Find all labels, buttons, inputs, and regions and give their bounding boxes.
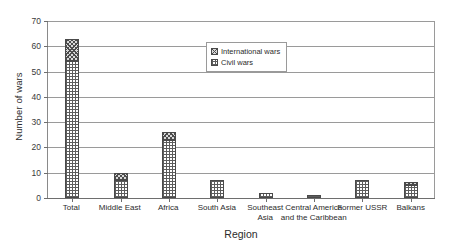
legend-item-civil-wars: Civil wars (211, 57, 280, 67)
y-axis-tick-label: 20 (32, 142, 41, 152)
x-axis-label: Region (47, 228, 435, 240)
y-axis-tick-label: 10 (32, 168, 41, 178)
x-axis-tick (72, 198, 73, 202)
x-axis-tick (314, 198, 315, 202)
legend-label-international-wars: International wars (221, 47, 280, 56)
bar-africa (162, 21, 176, 198)
bar-segment-civil (65, 61, 79, 198)
x-axis-tick (266, 198, 267, 202)
y-axis-tick (44, 198, 48, 199)
war-counts-bar-chart: Number of wars 010203040506070 TotalMidd… (0, 0, 450, 245)
x-axis-tick (121, 198, 122, 202)
legend-item-international-wars: International wars (211, 47, 280, 57)
bar-segment-civil (162, 140, 176, 198)
x-axis-tick-label: Balkans (374, 203, 448, 213)
bar-segment-intl (114, 173, 128, 181)
bar-segment-intl (162, 132, 176, 140)
bar-segment-intl (65, 39, 79, 62)
y-axis-label: Number of wars (13, 42, 24, 172)
x-axis-tick (411, 198, 412, 202)
x-axis-tick-label-line: and the Caribbean (277, 213, 351, 223)
bar-segment-civil (210, 180, 224, 198)
x-axis-tick (169, 198, 170, 202)
bar-balkans (404, 21, 418, 198)
x-axis-tick-label-line: Balkans (374, 203, 448, 213)
y-axis-tick-label: 70 (32, 16, 41, 26)
bar-segment-civil (355, 180, 369, 198)
bar-segment-civil (404, 185, 418, 198)
x-axis-tick (362, 198, 363, 202)
bar-former-ussr (355, 21, 369, 198)
x-axis-tick (217, 198, 218, 202)
bar-middle-east (114, 21, 128, 198)
bar-central-america-and-the-caribbean (307, 21, 321, 198)
bar-segment-intl (404, 182, 418, 186)
y-axis-tick-label: 50 (32, 67, 41, 77)
legend-label-civil-wars: Civil wars (221, 58, 253, 67)
y-axis-tick-label: 60 (32, 41, 41, 51)
y-axis-tick-label: 30 (32, 117, 41, 127)
bar-segment-civil (114, 180, 128, 198)
chart-legend: International wars Civil wars (206, 42, 287, 72)
legend-swatch-international-wars-icon (211, 48, 218, 55)
y-axis-tick-label: 0 (36, 193, 41, 203)
y-axis-tick-label: 40 (32, 92, 41, 102)
legend-swatch-civil-wars-icon (211, 59, 218, 66)
bar-total (65, 21, 79, 198)
x-axis-tick-labels: TotalMiddle EastAfricaSouth AsiaSoutheas… (47, 203, 435, 229)
